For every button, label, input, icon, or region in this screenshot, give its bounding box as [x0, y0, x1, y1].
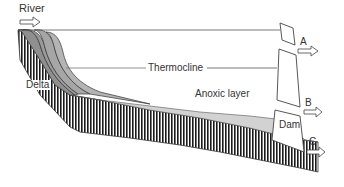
outlet-a-label: A [300, 37, 307, 47]
outlet-b-arrow-icon [304, 107, 322, 117]
dam-middle [277, 49, 300, 107]
dam-top [280, 23, 295, 45]
dam-label: Dam [279, 120, 300, 130]
river-arrow-icon [20, 17, 40, 27]
river-label: River [19, 3, 45, 14]
outlet-b-label: B [305, 98, 312, 108]
reservoir-diagram [0, 0, 344, 187]
thermocline-label: Thermocline [148, 63, 203, 73]
outlet-a-arrow-icon [298, 46, 318, 56]
outlet-c-label: C [309, 137, 316, 147]
delta-label: Delta [25, 80, 50, 90]
anoxic-layer-label: Anoxic layer [195, 89, 249, 99]
